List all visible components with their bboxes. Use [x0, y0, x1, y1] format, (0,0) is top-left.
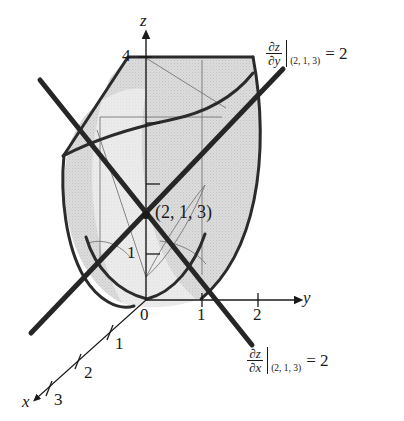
- annotation-dz-dx: ∂z ∂x (2, 1, 3) = 2: [247, 347, 329, 375]
- x-axis-label: x: [22, 393, 30, 410]
- fraction-dz-dy: ∂z ∂y: [266, 40, 282, 68]
- x-tick-label-2: 2: [84, 364, 93, 381]
- evaluation-bar-dz-dy: [286, 40, 287, 67]
- dz-dx-numerator: ∂z: [247, 347, 262, 360]
- evaluation-bar-dz-dx: [267, 347, 268, 374]
- tangent-point-label: (2, 1, 3): [155, 203, 212, 221]
- dz-dy-denominator: ∂y: [266, 53, 282, 67]
- z-tick-label-1: 1: [127, 244, 136, 261]
- x-tick-2: [75, 354, 81, 369]
- dz-dy-subscript-point: (2, 1, 3): [290, 56, 320, 68]
- x-tick-label-1: 1: [115, 335, 124, 352]
- dz-dx-value: = 2: [306, 351, 328, 371]
- x-axis: [38, 300, 146, 397]
- fraction-dz-dx: ∂z ∂x: [247, 347, 263, 375]
- x-tick-1: [107, 325, 113, 340]
- dz-dy-value: = 2: [325, 44, 347, 64]
- y-tick-label-1: 1: [197, 306, 206, 323]
- dz-dx-denominator: ∂x: [247, 360, 263, 374]
- annotation-dz-dy: ∂z ∂y (2, 1, 3) = 2: [266, 40, 348, 68]
- dz-dx-subscript-point: (2, 1, 3): [271, 363, 301, 375]
- z-tick-label-4: 4: [122, 47, 131, 64]
- y-tick-label-2: 2: [253, 306, 262, 323]
- dz-dy-numerator: ∂z: [266, 40, 281, 53]
- x-tick-label-3: 3: [54, 391, 63, 408]
- y-axis-label: y: [303, 289, 311, 306]
- z-axis-label: z: [140, 12, 147, 29]
- tangent-point-marker: [142, 211, 150, 219]
- y-tick-label-0: 0: [140, 306, 149, 323]
